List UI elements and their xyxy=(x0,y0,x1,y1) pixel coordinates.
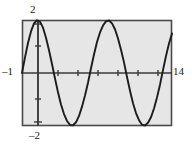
y-min-label: –2 xyxy=(29,130,40,141)
x-min-label: –1 xyxy=(2,66,13,77)
chart-figure: 2 –2 –1 14 xyxy=(0,0,192,151)
y-max-label: 2 xyxy=(30,4,36,15)
x-max-label: 14 xyxy=(173,66,184,77)
